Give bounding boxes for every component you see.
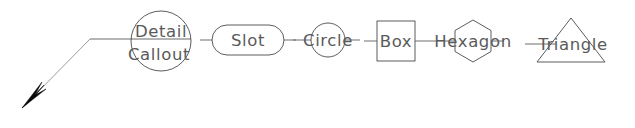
triangle-label: Triangle: [537, 35, 608, 54]
hexagon-label: Hexagon: [434, 32, 511, 51]
circle-label: Circle: [303, 31, 353, 50]
detail-callout-label-line-1: Detail: [135, 22, 187, 41]
annotation-triangle[interactable]: Triangle: [525, 18, 608, 62]
leader-arrowhead-body-icon: [22, 85, 44, 108]
detail-callout-label-line-2: Callout: [128, 45, 190, 64]
annotation-circle[interactable]: Circle: [293, 23, 360, 57]
annotation-box[interactable]: Box: [364, 21, 428, 61]
box-label: Box: [380, 32, 412, 51]
annotation-detail-callout[interactable]: Detail Callout: [128, 11, 191, 71]
drawing-canvas: Detail Callout Slot Circle Box: [0, 0, 635, 128]
slot-label: Slot: [231, 31, 265, 50]
cad-drawing-surface: Detail Callout Slot Circle Box: [0, 0, 635, 128]
annotation-hexagon[interactable]: Hexagon: [428, 20, 512, 62]
annotation-slot[interactable]: Slot: [200, 25, 296, 55]
